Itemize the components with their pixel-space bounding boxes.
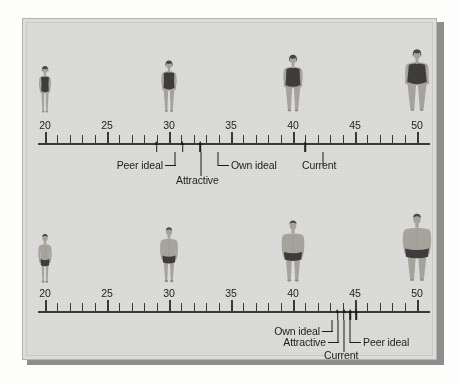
tick-male-38	[268, 303, 269, 311]
tick-male-33	[206, 303, 207, 311]
tick-female-27	[132, 135, 133, 143]
tick-male-24	[95, 303, 96, 311]
figure-root: 20253035404550 Peer ideal Attractive Own…	[0, 0, 460, 385]
male-attractive-leader-horizontal	[328, 342, 339, 343]
female-callout-own-ideal: Own ideal	[231, 159, 277, 171]
silhouette-male-3	[272, 200, 313, 291]
female-callout-peer-ideal: Peer ideal	[117, 159, 163, 171]
male-own-ideal-leader-horizontal	[322, 331, 333, 332]
tick-label-male-25: 25	[101, 287, 112, 299]
marker-male-peer-ideal	[355, 313, 357, 320]
tick-male-36	[243, 303, 244, 311]
tick-male-34	[219, 303, 220, 311]
silhouette-male-2	[151, 203, 188, 291]
tick-male-29	[157, 303, 158, 311]
tick-label-male-30: 30	[163, 287, 174, 299]
female-attractive-leader-vertical	[201, 152, 202, 176]
male-silhouette-row	[27, 199, 442, 291]
female-peer-ideal-leader-vertical	[175, 152, 176, 166]
tick-female-47	[380, 135, 381, 143]
tick-female-39	[281, 135, 282, 143]
tick-label-male-20: 20	[39, 287, 50, 299]
tick-female-49	[405, 135, 406, 143]
silhouette-female-3	[274, 30, 313, 121]
marker-male-current	[349, 313, 351, 320]
tick-male-30	[169, 300, 171, 311]
axis-endcap-female-50	[417, 132, 419, 143]
axis-endcap-male-50	[417, 300, 419, 311]
tick-label-male-45: 45	[349, 287, 360, 299]
tick-male-31	[181, 303, 182, 311]
tick-male-21	[57, 303, 58, 311]
silhouette-male-4	[394, 197, 439, 291]
male-axis-line	[38, 311, 430, 313]
tick-male-32	[194, 303, 195, 311]
tick-label-female-50: 50	[411, 119, 422, 131]
tick-female-42	[318, 135, 319, 143]
marker-female-peer-ideal	[156, 145, 158, 152]
tick-label-female-40: 40	[287, 119, 298, 131]
tick-label-female-30: 30	[163, 119, 174, 131]
tick-label-male-35: 35	[225, 287, 236, 299]
tick-female-35	[231, 132, 233, 143]
tick-female-32	[194, 135, 195, 143]
silhouette-female-2	[152, 33, 187, 121]
tick-female-38	[268, 135, 269, 143]
tick-male-47	[380, 303, 381, 311]
panel-female: 20253035404550 Peer ideal Attractive Own…	[27, 23, 442, 195]
tick-female-48	[392, 135, 393, 143]
tick-male-35	[231, 300, 233, 311]
tick-female-40	[293, 132, 295, 143]
female-axis-line	[38, 143, 430, 145]
tick-male-39	[281, 303, 282, 311]
tick-male-28	[144, 303, 145, 311]
silhouette-female-1	[29, 37, 61, 121]
tick-female-24	[95, 135, 96, 143]
tick-female-44	[343, 135, 344, 143]
tick-label-female-35: 35	[225, 119, 236, 131]
tick-male-42	[318, 303, 319, 311]
male-peer-ideal-leader-vertical	[350, 320, 351, 343]
tick-female-36	[243, 135, 244, 143]
tick-female-45	[355, 132, 357, 143]
tick-female-37	[256, 135, 257, 143]
axis-endcap-male-20	[45, 300, 47, 311]
tick-male-27	[132, 303, 133, 311]
tick-male-46	[367, 303, 368, 311]
male-current-leader-vertical	[344, 320, 345, 352]
axis-endcap-female-20	[45, 132, 47, 143]
silhouette-male-1	[29, 207, 62, 291]
female-axis: 20253035404550 Peer ideal Attractive Own…	[27, 119, 442, 185]
marker-male-attractive	[343, 313, 345, 320]
female-own-ideal-leader-horizontal	[218, 165, 229, 166]
tick-male-48	[392, 303, 393, 311]
tick-female-25	[107, 132, 109, 143]
tick-female-43	[330, 135, 331, 143]
male-axis: 20253035404550 Own ideal Attractive Curr…	[27, 287, 442, 353]
tick-male-40	[293, 300, 295, 311]
tick-male-41	[305, 303, 306, 311]
tick-label-female-45: 45	[349, 119, 360, 131]
marker-female-attractive	[182, 145, 184, 152]
female-callout-current: Current	[302, 159, 336, 171]
tick-female-46	[367, 135, 368, 143]
tick-male-43	[330, 303, 331, 311]
marker-female-own-ideal	[199, 145, 201, 152]
silhouette-female-4	[396, 27, 438, 121]
female-callout-attractive: Attractive	[176, 174, 219, 186]
tick-male-25	[107, 300, 109, 311]
tick-female-34	[219, 135, 220, 143]
tick-female-21	[57, 135, 58, 143]
panel-male: 20253035404550 Own ideal Attractive Curr…	[27, 195, 442, 365]
female-silhouette-row	[27, 29, 442, 121]
tick-male-26	[119, 303, 120, 311]
tick-female-22	[70, 135, 71, 143]
tick-label-male-40: 40	[287, 287, 298, 299]
male-callout-attractive: Attractive	[283, 336, 326, 348]
tick-male-23	[82, 303, 83, 311]
tick-female-26	[119, 135, 120, 143]
female-own-ideal-leader-vertical	[218, 152, 219, 166]
tick-label-female-25: 25	[101, 119, 112, 131]
tick-female-28	[144, 135, 145, 143]
tick-female-30	[169, 132, 171, 143]
